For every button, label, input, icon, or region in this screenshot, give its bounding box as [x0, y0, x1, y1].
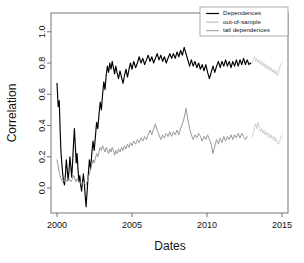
series-line — [252, 122, 282, 144]
y-tick-label: 0.8 — [37, 57, 47, 70]
legend-label: tail dependences — [223, 26, 270, 33]
data-series-layer — [57, 47, 282, 206]
x-axis-ticks: 2000200520102015 — [47, 213, 292, 230]
y-axis-ticks: 0.00.20.40.60.81.0 — [37, 25, 51, 194]
x-tick-label: 2015 — [272, 220, 292, 230]
x-tick-label: 2005 — [122, 220, 142, 230]
correlation-line-chart: 0.00.20.40.60.81.0 2000200520102015 Depe… — [0, 0, 304, 263]
x-axis-title: Dates — [154, 239, 185, 253]
y-tick-label: 0.4 — [37, 119, 47, 132]
legend-label: out-of-sample — [223, 18, 261, 25]
y-tick-label: 1.0 — [37, 25, 47, 38]
x-tick-label: 2010 — [197, 220, 217, 230]
series-line — [252, 57, 282, 76]
chart-figure: 0.00.20.40.60.81.0 2000200520102015 Depe… — [0, 0, 304, 263]
legend-label: Dependences — [223, 9, 261, 16]
y-tick-label: 0.0 — [37, 182, 47, 195]
y-axis-title: Correlation — [5, 84, 19, 143]
chart-legend: Dependencesout-of-sampletail dependences — [200, 7, 288, 36]
x-tick-label: 2000 — [47, 220, 67, 230]
y-tick-label: 0.6 — [37, 88, 47, 101]
y-tick-label: 0.2 — [37, 150, 47, 163]
series-line — [57, 108, 247, 185]
